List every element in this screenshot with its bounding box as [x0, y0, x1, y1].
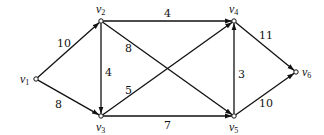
edge-weight-label: 8 — [125, 42, 132, 55]
edges-layer: 1084485731110 — [38, 7, 295, 132]
edge-weight-label: 3 — [238, 68, 245, 81]
edge-weight-label: 4 — [105, 66, 112, 79]
node-label-v6: v6 — [302, 65, 311, 80]
edge-weight-label: 4 — [164, 7, 171, 20]
directed-graph: 1084485731110 v1v2v3v4v5v6 — [0, 0, 324, 135]
node-v2 — [99, 19, 103, 23]
nodes-layer: v1v2v3v4v5v6 — [20, 2, 311, 135]
edge-weight-label: 7 — [164, 119, 171, 132]
node-v4 — [232, 19, 236, 23]
node-v1 — [34, 77, 38, 81]
edge-v1-v2 — [38, 22, 100, 77]
node-v3 — [99, 114, 103, 118]
node-label-v4: v4 — [229, 2, 238, 17]
edge-weight-label: 10 — [57, 37, 71, 50]
node-v6 — [294, 70, 298, 74]
node-label-v1: v1 — [20, 72, 29, 87]
node-label-v3: v3 — [96, 120, 105, 135]
edge-weight-label: 10 — [259, 97, 273, 110]
edge-v1-v3 — [38, 80, 99, 115]
node-label-v2: v2 — [96, 2, 105, 17]
edge-weight-label: 11 — [259, 29, 273, 42]
node-v5 — [232, 114, 236, 118]
node-label-v5: v5 — [229, 120, 238, 135]
edge-weight-label: 5 — [125, 84, 132, 97]
edge-weight-label: 8 — [55, 98, 62, 111]
